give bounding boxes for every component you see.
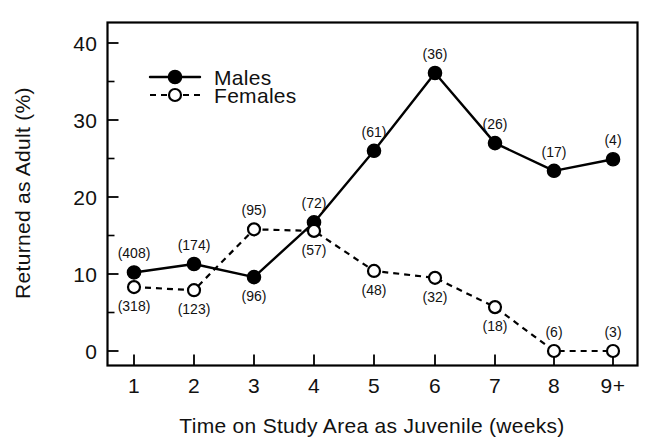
legend-marker-males [168,70,181,83]
data-point-males-2[interactable] [187,257,200,270]
point-label-males-9+: (4) [604,132,621,148]
y-tick-label: 40 [73,32,97,55]
data-point-females-8[interactable] [548,345,560,357]
point-label-males-6: (36) [423,46,448,62]
point-label-females-8: (6) [545,324,562,340]
x-tick-label: 5 [368,374,380,397]
data-point-females-3[interactable] [248,223,260,235]
point-label-females-1: (318) [118,298,151,314]
point-label-females-7: (18) [483,318,508,334]
data-point-males-5[interactable] [367,144,380,157]
point-label-males-3: (96) [242,288,267,304]
x-tick-label: 2 [188,374,200,397]
data-point-females-5[interactable] [368,265,380,277]
point-label-females-5: (48) [362,282,387,298]
line-chart: 010203040 123456789+ (408)(174)(96)(72)(… [0,0,662,448]
x-tick-label: 1 [128,374,140,397]
x-tick-label: 6 [429,374,441,397]
data-point-males-7[interactable] [488,137,501,150]
point-label-males-4: (72) [302,195,327,211]
data-point-males-9+[interactable] [606,153,619,166]
point-label-females-9+: (3) [604,324,621,340]
legend-label-females: Females [214,84,297,107]
data-point-females-9+[interactable] [607,345,619,357]
figure-container: 010203040 123456789+ (408)(174)(96)(72)(… [0,0,662,448]
x-axis-tick-labels: 123456789+ [128,374,626,397]
point-label-males-2: (174) [178,237,211,253]
x-tick-label: 9+ [601,374,626,397]
data-point-males-3[interactable] [247,270,260,283]
point-label-females-3: (95) [242,202,267,218]
point-label-males-7: (26) [483,116,508,132]
y-tick-label: 10 [73,263,97,286]
x-axis-title: Time on Study Area as Juvenile (weeks) [179,414,564,437]
x-axis-ticks [134,355,613,366]
data-point-females-2[interactable] [188,284,200,296]
legend-marker-females [169,89,181,101]
point-label-females-2: (123) [178,301,211,317]
x-tick-label: 3 [248,374,260,397]
data-point-females-1[interactable] [128,281,140,293]
data-point-females-6[interactable] [429,272,441,284]
data-point-males-8[interactable] [547,164,560,177]
x-tick-label: 8 [548,374,560,397]
point-label-females-6: (32) [423,289,448,305]
y-tick-label: 30 [73,109,97,132]
point-label-females-4: (57) [302,242,327,258]
point-label-males-5: (61) [362,124,387,140]
y-axis-tick-labels: 010203040 [73,32,97,363]
y-tick-label: 20 [73,186,97,209]
data-point-females-4[interactable] [308,225,320,237]
y-axis-title: Returned as Adult (%) [11,87,34,299]
x-tick-label: 4 [308,374,320,397]
y-tick-label: 0 [85,340,97,363]
x-tick-label: 7 [489,374,501,397]
point-label-males-1: (408) [118,245,151,261]
chart-legend: MalesFemales [150,66,297,107]
data-point-males-1[interactable] [127,266,140,279]
data-point-females-7[interactable] [489,301,501,313]
point-label-males-8: (17) [542,144,567,160]
data-point-males-6[interactable] [428,66,441,79]
